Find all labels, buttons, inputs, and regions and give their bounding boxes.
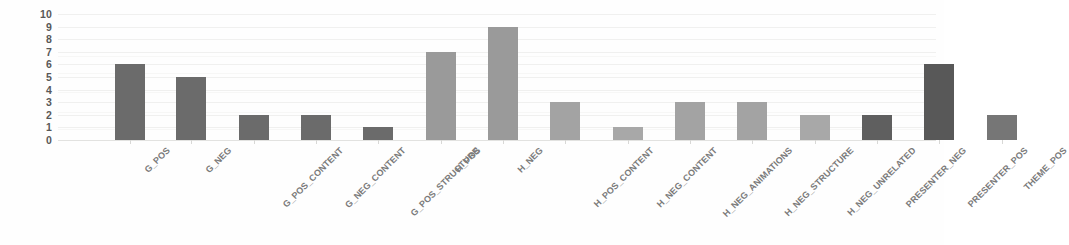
y-axis-tick-label: 10: [40, 9, 52, 20]
x-axis-label: H_NEG_STRUCTURE: [783, 146, 855, 218]
x-axis-tick-mark: [877, 140, 878, 144]
bar-series: [58, 14, 936, 140]
bar-g-neg: [176, 77, 206, 140]
x-axis-label: G_NEG_CONTENT: [344, 146, 408, 210]
x-axis-tick-mark: [565, 140, 566, 144]
bar-h-pos: [426, 52, 456, 140]
y-axis: 109876543210: [22, 14, 52, 140]
y-axis-tick-label: 5: [46, 72, 52, 83]
bar-g-pos: [115, 64, 145, 140]
y-axis-tick-label: 3: [46, 97, 52, 108]
plot-area: [58, 14, 936, 140]
x-axis-tick-mark: [1002, 140, 1003, 144]
x-axis-tick-mark: [191, 140, 192, 144]
bar-theme-pos: [987, 115, 1017, 140]
y-axis-tick-label: 2: [46, 110, 52, 121]
x-axis-tick-mark: [378, 140, 379, 144]
x-axis: G_POSG_NEGG_POS_CONTENTG_NEG_CONTENTG_PO…: [58, 140, 936, 240]
x-axis-label: G_NEG: [204, 146, 233, 175]
x-axis-label: H_NEG_ANIMATIONS: [722, 146, 795, 219]
x-axis-tick-mark: [316, 140, 317, 144]
y-axis-tick-label: 9: [46, 21, 52, 32]
bar-h-neg-structure: [737, 102, 767, 140]
bar-h-neg-unrelated: [800, 115, 830, 140]
y-axis-tick-label: 0: [46, 135, 52, 146]
bar-h-neg-animations: [675, 102, 705, 140]
x-axis-tick-mark: [503, 140, 504, 144]
x-axis-label: H_NEG_UNRELATED: [846, 146, 918, 218]
y-axis-tick-label: 7: [46, 47, 52, 58]
y-axis-tick-label: 4: [46, 84, 52, 95]
x-axis-tick-mark: [441, 140, 442, 144]
bar-h-neg-content: [613, 127, 643, 140]
x-axis-tick-mark: [628, 140, 629, 144]
bar-presenter-neg: [862, 115, 892, 140]
y-axis-tick-label: 1: [46, 122, 52, 133]
x-axis-label: G_POS: [143, 146, 172, 175]
x-axis-tick-mark: [254, 140, 255, 144]
x-axis-label: G_POS_CONTENT: [282, 146, 346, 210]
x-axis-tick-mark: [939, 140, 940, 144]
x-axis-tick-mark: [752, 140, 753, 144]
bar-h-neg: [488, 27, 518, 140]
x-axis-tick-mark: [690, 140, 691, 144]
bar-h-pos-content: [550, 102, 580, 140]
bar-presenter-pos: [924, 64, 954, 140]
x-axis-label: THEME_POS: [1023, 146, 1069, 192]
x-axis-label: H_NEG_CONTENT: [656, 146, 720, 210]
x-axis-label: H_NEG: [516, 146, 545, 175]
bar-g-neg-content: [301, 115, 331, 140]
bar-g-pos-structure: [363, 127, 393, 140]
x-axis-tick-mark: [815, 140, 816, 144]
y-axis-tick-label: 6: [46, 59, 52, 70]
x-axis-tick-mark: [130, 140, 131, 144]
x-axis-label: H_POS_CONTENT: [593, 146, 656, 209]
y-axis-tick-label: 8: [46, 34, 52, 45]
bar-g-pos-content: [239, 115, 269, 140]
x-axis-label: PRESENTER_POS: [967, 146, 1030, 209]
